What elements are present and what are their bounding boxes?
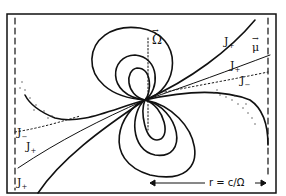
j-plus-label-upper: J+ bbox=[224, 36, 234, 50]
mu-label: μ bbox=[252, 42, 259, 53]
magnetosphere-diagram: Ω μ J+ J+ J− J− J+ J+ r = c/Ω bbox=[0, 0, 286, 196]
diagram-drawing bbox=[0, 0, 286, 196]
light-cylinder-label: r = c/Ω bbox=[209, 178, 244, 188]
j-plus-label-right: J+ bbox=[230, 60, 240, 74]
j-plus-label-left: J+ bbox=[26, 141, 36, 155]
j-minus-label-right: J− bbox=[240, 75, 250, 89]
j-plus-label-bottom: J+ bbox=[17, 177, 27, 191]
omega-label: Ω bbox=[152, 34, 162, 46]
